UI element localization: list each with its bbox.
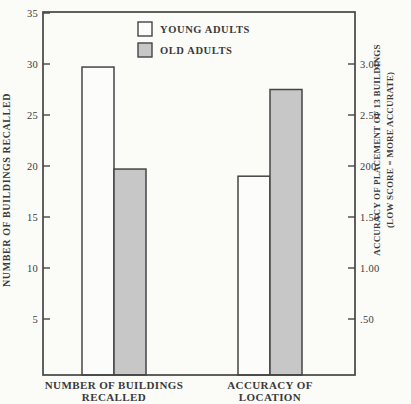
right-axis-title-line2: (LOW SCORE = MORE ACCURATE) (385, 72, 395, 228)
category-label-group1-line2: RECALLED (82, 391, 146, 403)
left-axis-title: NUMBER OF BUILDINGS RECALLED (1, 93, 12, 287)
left-axis-tick-label-15: 15 (27, 212, 38, 223)
figure: 35302520151053.002.502001.501.00.50NUMBE… (0, 0, 411, 404)
left-axis-tick-label-35: 35 (27, 8, 38, 19)
bar-old-adults-group2 (270, 90, 302, 376)
category-label-group1-line1: NUMBER OF BUILDINGS (45, 379, 184, 391)
bar-old-adults-group1 (114, 169, 146, 375)
category-label-group2-line2: LOCATION (239, 391, 301, 403)
legend-swatch-old-adults (138, 43, 152, 57)
bar-young-adults-group2 (238, 176, 270, 375)
legend-label-old-adults: OLD ADULTS (160, 45, 232, 56)
legend-label-young-adults: YOUNG ADULTS (160, 24, 250, 35)
left-axis-tick-label-25: 25 (27, 110, 38, 121)
legend-swatch-young-adults (138, 22, 152, 36)
left-axis-tick-label-20: 20 (27, 161, 38, 172)
right-axis-title-line1: ACCURACY OF PLACEMENT OF 13 BUILDINGS (372, 44, 382, 256)
category-label-group2-line1: ACCURACY OF (227, 379, 313, 391)
right-axis-tick-label-1.00: 1.00 (360, 263, 380, 274)
bar-chart: 35302520151053.002.502001.501.00.50NUMBE… (0, 0, 411, 404)
left-axis-tick-label-5: 5 (32, 314, 38, 325)
right-axis-tick-label-.50: .50 (360, 314, 374, 325)
bar-young-adults-group1 (82, 67, 114, 375)
left-axis-tick-label-10: 10 (27, 263, 38, 274)
left-axis-tick-label-30: 30 (27, 59, 38, 70)
